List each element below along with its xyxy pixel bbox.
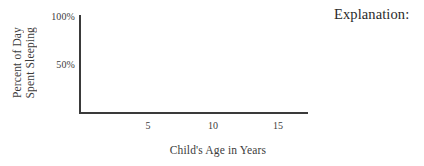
y-axis-title-line-2: Spent Sleeping (24, 27, 37, 98)
x-tick-label-10: 10 (198, 120, 228, 131)
y-axis-line (79, 15, 81, 114)
y-axis-title: Percent of Day Spent Sleeping (3, 8, 45, 118)
sleep-percent-chart-figure: 100% 50% 5 10 15 Percent of Day Spent Sl… (0, 0, 424, 166)
x-axis-title: Child's Age in Years (118, 143, 318, 157)
explanation-heading: Explanation: (334, 6, 409, 23)
x-tick-label-15: 15 (263, 120, 293, 131)
x-tick-label-5: 5 (133, 120, 163, 131)
y-axis-title-line-1: Percent of Day (11, 27, 24, 98)
x-axis-line (79, 112, 308, 114)
